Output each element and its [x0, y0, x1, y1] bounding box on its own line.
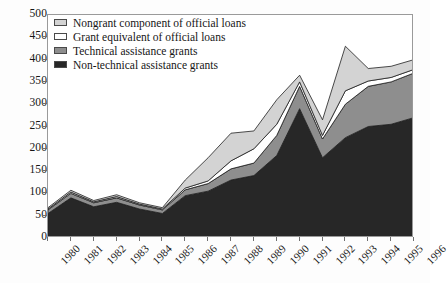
x-tick-label: 1985: [173, 243, 197, 267]
x-tick-mark: [276, 237, 277, 241]
x-tick-label: 1995: [402, 243, 426, 267]
x-tick-label: 1986: [196, 243, 220, 267]
legend-swatch: [54, 33, 67, 40]
y-tick-label: 200: [7, 142, 47, 154]
x-tick-mark: [70, 237, 71, 241]
x-axis: 1980198119821983198419851986198719881989…: [47, 237, 413, 283]
legend-item: Nongrant component of official loans: [54, 16, 264, 29]
x-tick-label: 1987: [219, 243, 243, 267]
x-tick-mark: [161, 237, 162, 241]
x-tick-label: 1991: [310, 243, 334, 267]
y-tick-label: 450: [7, 30, 47, 42]
x-tick-label: 1982: [104, 243, 128, 267]
y-tick-label: 150: [7, 164, 47, 176]
legend-item: Non-technical assistance grants: [54, 58, 264, 71]
y-tick-label: 100: [7, 186, 47, 198]
x-tick-label: 1988: [242, 243, 266, 267]
x-tick-mark: [413, 237, 414, 241]
x-tick-label: 1992: [333, 243, 357, 267]
x-tick-mark: [230, 237, 231, 241]
legend-swatch: [54, 47, 67, 54]
x-tick-mark: [390, 237, 391, 241]
x-tick-mark: [322, 237, 323, 241]
x-tick-mark: [299, 237, 300, 241]
legend-label: Nongrant component of official loans: [73, 17, 246, 29]
x-tick-label: 1981: [81, 243, 105, 267]
x-tick-mark: [253, 237, 254, 241]
x-tick-mark: [93, 237, 94, 241]
x-tick-label: 1983: [127, 243, 151, 267]
y-tick-label: 250: [7, 120, 47, 132]
x-tick-mark: [184, 237, 185, 241]
x-tick-label: 1980: [59, 243, 83, 267]
y-tick-label: 500: [7, 8, 47, 20]
x-tick-label: 1984: [150, 243, 174, 267]
x-tick-mark: [207, 237, 208, 241]
x-tick-mark: [367, 237, 368, 241]
x-tick-label: 1996: [425, 243, 448, 267]
legend-item: Grant equivalent of official loans: [54, 30, 264, 43]
y-tick-label: 0: [7, 231, 47, 243]
x-tick-label: 1994: [379, 243, 403, 267]
legend-label: Non-technical assistance grants: [73, 59, 218, 71]
x-tick-mark: [116, 237, 117, 241]
legend-label: Technical assistance grants: [73, 45, 197, 57]
x-tick-mark: [344, 237, 345, 241]
x-tick-mark: [139, 237, 140, 241]
legend-item: Technical assistance grants: [54, 44, 264, 57]
legend-swatch: [54, 61, 67, 68]
legend-swatch: [54, 19, 67, 26]
x-tick-label: 1989: [264, 243, 288, 267]
legend-label: Grant equivalent of official loans: [73, 31, 225, 43]
y-tick-label: 50: [7, 209, 47, 221]
x-tick-label: 1993: [356, 243, 380, 267]
y-tick-label: 300: [7, 97, 47, 109]
chart-legend: Nongrant component of official loansGran…: [54, 16, 264, 72]
y-axis: 050100150200250300350400450500: [0, 0, 47, 283]
y-tick-label: 350: [7, 75, 47, 87]
y-tick-label: 400: [7, 53, 47, 65]
x-tick-mark: [47, 237, 48, 241]
x-tick-label: 1990: [287, 243, 311, 267]
